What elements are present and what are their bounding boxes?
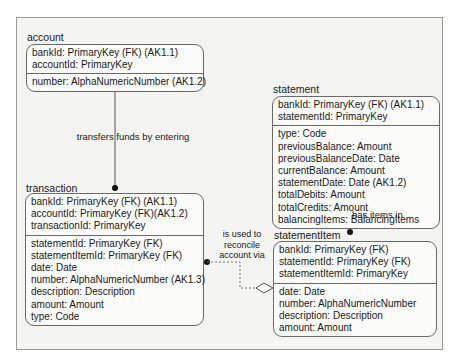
statement-statementitem-dot-icon	[347, 229, 353, 235]
attribute: statementDate: Date (AK1.2)	[278, 177, 434, 189]
attribute: date: Date	[279, 286, 431, 298]
attribute: number: AlphaNumericNumber (AK1.2)	[32, 76, 198, 88]
label-line: account via	[212, 250, 272, 261]
transaction-attributes: statementId: PrimaryKey (FK) statementIt…	[26, 235, 203, 325]
attribute: accountId: PrimaryKey (FK)(AK1.2)	[31, 208, 198, 220]
entity-account[interactable]: bankId: PrimaryKey (FK) (AK1.1) accountI…	[26, 44, 204, 92]
attribute: type: Code	[278, 128, 434, 140]
attribute: accountId: PrimaryKey	[32, 59, 198, 71]
attribute: date: Date	[31, 262, 198, 274]
attribute: amount: Amount	[31, 299, 198, 311]
account-keys: bankId: PrimaryKey (FK) (AK1.1) accountI…	[27, 45, 203, 73]
attribute: statementId: PrimaryKey (FK)	[31, 238, 198, 250]
relationship-label-transfers: transfers funds by entering	[68, 131, 198, 142]
reconcile-dashed-line	[207, 262, 256, 288]
label-line: reconcile	[212, 240, 272, 251]
attribute: description: Description	[279, 310, 431, 322]
attribute: amount: Amount	[279, 322, 431, 334]
attribute: description: Description	[31, 286, 198, 298]
attribute: bankId: PrimaryKey (FK) (AK1.1)	[278, 99, 434, 111]
entity-title-account: account	[27, 31, 64, 43]
account-transaction-dot-icon	[112, 185, 118, 191]
attribute: statementId: PrimaryKey	[278, 111, 434, 123]
relationship-label-has-items: has items in	[352, 209, 403, 220]
statementitem-attributes: date: Date number: AlphaNumericNumber de…	[274, 283, 436, 337]
entity-title-statementitem: statementItem	[274, 229, 341, 241]
attribute: number: AlphaNumericNumber	[279, 298, 431, 310]
entity-transaction[interactable]: bankId: PrimaryKey (FK) (AK1.1) accountI…	[25, 193, 204, 326]
attribute: statementId: PrimaryKey (FK)	[279, 256, 431, 268]
attribute: number: AlphaNumericNumber (AK1.3)	[31, 274, 198, 286]
entity-statementitem[interactable]: bankId: PrimaryKey (FK) statementId: Pri…	[273, 241, 437, 337]
attribute: statementItemId: PrimaryKey	[279, 268, 431, 280]
statement-keys: bankId: PrimaryKey (FK) (AK1.1) statemen…	[273, 97, 439, 125]
relationship-label-reconcile: is used to reconcile account via	[212, 229, 272, 261]
attribute: type: Code	[31, 311, 198, 323]
attribute: bankId: PrimaryKey (FK)	[279, 244, 431, 256]
attribute: currentBalance: Amount	[278, 165, 434, 177]
attribute: previousBalance: Amount	[278, 141, 434, 153]
attribute: bankId: PrimaryKey (FK) (AK1.1)	[32, 47, 198, 59]
label-line: is used to	[212, 229, 272, 240]
statementitem-keys: bankId: PrimaryKey (FK) statementId: Pri…	[274, 242, 436, 283]
entity-title-statement: statement	[273, 83, 319, 95]
attribute: bankId: PrimaryKey (FK) (AK1.1)	[31, 196, 198, 208]
aggregation-diamond-icon	[256, 283, 273, 293]
attribute: totalDebits: Amount	[278, 189, 434, 201]
attribute: transactionId: PrimaryKey	[31, 220, 198, 232]
transaction-keys: bankId: PrimaryKey (FK) (AK1.1) accountI…	[26, 194, 203, 235]
attribute: statementItemId: PrimaryKey (FK)	[31, 250, 198, 262]
account-attributes: number: AlphaNumericNumber (AK1.2)	[27, 73, 203, 90]
attribute: previousBalanceDate: Date	[278, 153, 434, 165]
